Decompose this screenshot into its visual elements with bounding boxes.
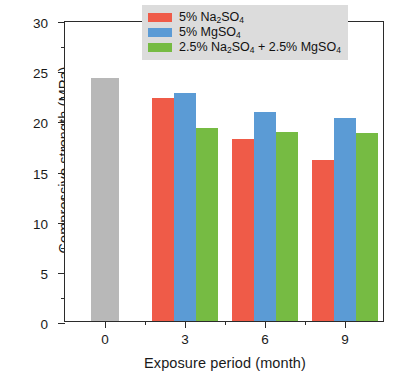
y-tick-minor [61, 47, 65, 48]
x-tick-label: 0 [101, 332, 109, 347]
x-axis-title: Exposure period (month) [55, 355, 395, 371]
y-tick-label: 25 [33, 66, 48, 81]
y-tick-major: 5 [58, 273, 65, 274]
bar [254, 112, 276, 321]
legend-label: 2.5% Na2SO4 + 2.5% MgSO4 [179, 41, 341, 54]
bar [312, 160, 334, 321]
bar [196, 128, 218, 321]
y-tick-label: 30 [33, 16, 48, 31]
y-tick-label: 15 [33, 166, 48, 181]
y-tick-label: 20 [33, 116, 48, 131]
y-tick-major: 10 [58, 223, 65, 224]
y-tick-minor [61, 198, 65, 199]
bar [356, 133, 378, 321]
plot-area: 051015202530 0369 [64, 21, 384, 322]
legend: 5% Na2SO45% MgSO42.5% Na2SO4 + 2.5% MgSO… [142, 5, 348, 60]
bar [174, 93, 196, 321]
y-tick-minor [61, 97, 65, 98]
x-tick-major [345, 321, 346, 328]
y-tick-minor [61, 298, 65, 299]
y-tick-label: 0 [40, 317, 48, 332]
y-tick-label: 5 [40, 266, 48, 281]
y-tick-major: 20 [58, 122, 65, 123]
legend-swatch-icon [148, 28, 172, 37]
legend-item: 5% MgSO4 [148, 25, 341, 40]
bar [334, 118, 356, 321]
legend-swatch-icon [148, 13, 172, 22]
legend-item: 2.5% Na2SO4 + 2.5% MgSO4 [148, 40, 341, 55]
x-tick-major [265, 321, 266, 328]
y-tick-major: 30 [58, 22, 65, 23]
x-tick-minor [145, 321, 146, 325]
y-tick-label: 10 [33, 216, 48, 231]
y-tick-minor [61, 147, 65, 148]
legend-swatch-icon [148, 43, 172, 52]
legend-item: 5% Na2SO4 [148, 10, 341, 25]
bar [276, 132, 298, 321]
legend-label: 5% MgSO4 [179, 26, 241, 39]
x-tick-major [105, 321, 106, 328]
y-tick-major: 15 [58, 173, 65, 174]
bar [152, 98, 174, 321]
bar-chart-figure: Compressive strength (MPa) 051015202530 … [0, 0, 404, 383]
x-tick-minor [225, 321, 226, 325]
bar [232, 139, 254, 321]
x-tick-major [185, 321, 186, 328]
x-tick-label: 9 [341, 332, 349, 347]
y-tick-minor [61, 248, 65, 249]
y-tick-major: 25 [58, 72, 65, 73]
x-tick-label: 3 [181, 332, 189, 347]
legend-label: 5% Na2SO4 [179, 11, 244, 24]
x-tick-label: 6 [261, 332, 269, 347]
bar [91, 78, 119, 321]
y-tick-major: 0 [58, 323, 65, 324]
x-tick-minor [305, 321, 306, 325]
